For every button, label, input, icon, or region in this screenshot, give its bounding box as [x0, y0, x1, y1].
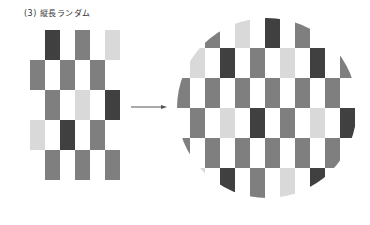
tile-dark: [220, 48, 235, 78]
tile-mid: [265, 138, 280, 168]
tile-mid: [325, 78, 340, 108]
tile-dark: [220, 168, 235, 198]
tile-mid: [280, 108, 295, 138]
tile-mid: [265, 78, 280, 108]
tile-light: [105, 30, 120, 60]
tile-mid: [235, 138, 250, 168]
tile-mid: [340, 48, 355, 78]
tile-light: [75, 90, 90, 120]
tile-dark: [310, 48, 325, 78]
tile-mid: [45, 90, 60, 120]
tile-mid: [205, 78, 220, 108]
tile-mid: [295, 18, 310, 48]
tile-mid: [45, 150, 60, 180]
tile-mid: [205, 18, 220, 48]
tile-mid: [177, 138, 190, 168]
tile-light: [280, 168, 295, 198]
tile-mid: [250, 168, 265, 198]
tile-light: [310, 108, 325, 138]
right-arrow-icon: [131, 105, 167, 109]
tile-mid: [205, 138, 220, 168]
circle-tile-pattern: [177, 18, 357, 198]
tile-mid: [105, 150, 120, 180]
tile-dark: [60, 120, 75, 150]
tile-light: [220, 108, 235, 138]
tile-mid: [250, 48, 265, 78]
tile-light: [280, 48, 295, 78]
tile-dark: [340, 108, 355, 138]
tile-mid: [295, 78, 310, 108]
tile-light: [190, 48, 205, 78]
figure-title: (3) 縦長ランダム: [24, 7, 91, 18]
tile-mid: [235, 78, 250, 108]
tile-mid: [90, 120, 105, 150]
tile-mid: [190, 108, 205, 138]
tile-dark: [45, 30, 60, 60]
tile-dark: [310, 168, 325, 198]
tile-mid: [325, 138, 340, 168]
tile-mid: [295, 138, 310, 168]
tile-dark: [250, 108, 265, 138]
tile-light: [190, 168, 205, 198]
tile-light: [235, 18, 250, 48]
tile-mid: [30, 60, 45, 90]
tile-light: [30, 120, 45, 150]
tile-dark: [265, 18, 280, 48]
circular-magnified-pattern: [177, 18, 357, 198]
tile-mid: [90, 60, 105, 90]
tile-dark: [105, 90, 120, 120]
tile-mid: [60, 60, 75, 90]
tile-mid: [177, 78, 190, 108]
tile-mid: [75, 150, 90, 180]
tile-mid: [75, 30, 90, 60]
